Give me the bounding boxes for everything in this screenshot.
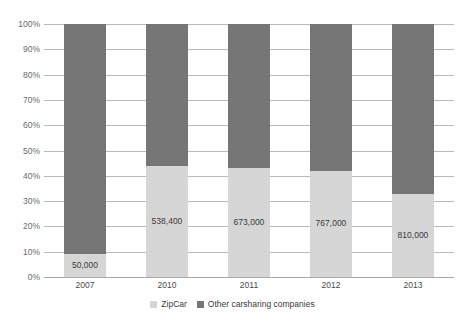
- y-axis-tick-label: 90%: [2, 45, 40, 54]
- legend-label: Other carsharing companies: [208, 300, 315, 309]
- bar-value-label: 50,000: [64, 261, 107, 270]
- bar-stack[interactable]: 538,400: [146, 24, 189, 277]
- y-axis: 0%10%20%30%40%50%60%70%80%90%100%: [0, 24, 40, 277]
- bar-segment-other-carsharing-companies[interactable]: [228, 24, 271, 168]
- bar-stack[interactable]: 810,000: [392, 24, 435, 277]
- y-axis-tick-label: 10%: [2, 247, 40, 256]
- x-axis: 20072010201120122013: [44, 281, 454, 295]
- y-axis-tick-label: 50%: [2, 146, 40, 155]
- legend-item[interactable]: ZipCar: [150, 300, 187, 309]
- x-axis-tick-label: 2013: [372, 281, 454, 290]
- y-axis-tick-label: 30%: [2, 197, 40, 206]
- x-axis-tick-label: 2011: [208, 281, 290, 290]
- y-axis-tick-label: 70%: [2, 96, 40, 105]
- bar-stack[interactable]: 767,000: [310, 24, 353, 277]
- bar-segment-other-carsharing-companies[interactable]: [64, 24, 107, 254]
- gridline: [44, 277, 454, 278]
- x-axis-tick-label: 2010: [126, 281, 208, 290]
- y-axis-tick-label: 20%: [2, 222, 40, 231]
- y-axis-tick-label: 60%: [2, 121, 40, 130]
- bar-segment-other-carsharing-companies[interactable]: [310, 24, 353, 171]
- x-axis-tick-label: 2012: [290, 281, 372, 290]
- bar-value-label: 673,000: [228, 218, 271, 227]
- y-axis-tick-label: 80%: [2, 70, 40, 79]
- plot-area: 50,000538,400673,000767,000810,000: [44, 24, 454, 277]
- bar-value-label: 810,000: [392, 231, 435, 240]
- legend-swatch-icon: [197, 301, 204, 308]
- y-axis-tick-label: 100%: [2, 20, 40, 29]
- bar-value-label: 538,400: [146, 217, 189, 226]
- bar-segment-other-carsharing-companies[interactable]: [392, 24, 435, 194]
- legend-item[interactable]: Other carsharing companies: [197, 300, 315, 309]
- y-axis-tick-label: 0%: [2, 273, 40, 282]
- bar-value-label: 767,000: [310, 219, 353, 228]
- x-axis-tick-label: 2007: [44, 281, 126, 290]
- y-axis-tick-label: 40%: [2, 172, 40, 181]
- bar-stack[interactable]: 50,000: [64, 24, 107, 277]
- bar-stack[interactable]: 673,000: [228, 24, 271, 277]
- chart-legend: ZipCarOther carsharing companies: [0, 300, 465, 309]
- stacked-bar-chart: 0%10%20%30%40%50%60%70%80%90%100% 50,000…: [0, 0, 465, 322]
- legend-swatch-icon: [150, 301, 157, 308]
- legend-label: ZipCar: [161, 300, 187, 309]
- bar-segment-other-carsharing-companies[interactable]: [146, 24, 189, 166]
